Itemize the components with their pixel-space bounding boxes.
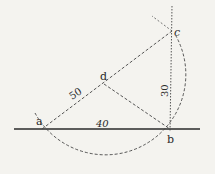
segment-label-bc: 30 <box>159 84 170 97</box>
line-c-extension <box>152 16 172 31</box>
point-label-c: c <box>174 26 180 39</box>
point-label-b: b <box>167 133 174 146</box>
geometry-diagram: a b c d 50 40 30 <box>0 0 215 174</box>
point-label-d: d <box>100 70 107 83</box>
perpendicular-bc <box>170 6 172 132</box>
point-label-a: a <box>36 115 43 128</box>
segment-label-ad: 50 <box>67 86 84 102</box>
diagram-canvas: a b c d 50 40 30 <box>0 0 215 174</box>
segment-label-ab: 40 <box>95 118 109 129</box>
